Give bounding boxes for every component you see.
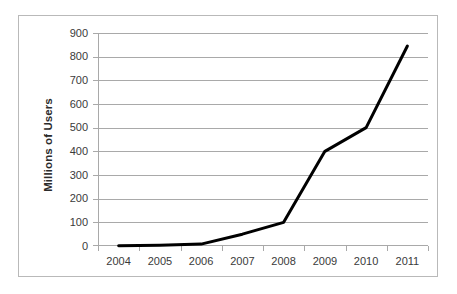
x-tick-mark-2 [181,246,182,251]
x-tick-label-2010: 2010 [345,255,387,267]
x-tick-label-2007: 2007 [221,255,263,267]
data-series-line [98,33,428,246]
y-tick-label-200: 200 [54,193,88,204]
x-tick-label-2004: 2004 [98,255,140,267]
x-tick-label-2008: 2008 [263,255,305,267]
x-tick-mark-5 [304,246,305,251]
x-tick-mark-6 [346,246,347,251]
y-tick-label-600: 600 [54,99,88,110]
chart-figure: Millions of Users 900 800 700 600 500 40… [0,0,457,294]
y-tick-label-100: 100 [54,217,88,228]
y-tick-label-400: 400 [54,146,88,157]
x-tick-mark-7 [387,246,388,251]
x-tick-label-2009: 2009 [304,255,346,267]
y-tick-label-800: 800 [54,51,88,62]
y-tick-label-300: 300 [54,170,88,181]
x-tick-label-2006: 2006 [180,255,222,267]
y-tick-label-500: 500 [54,122,88,133]
x-tick-mark-4 [263,246,264,251]
x-tick-mark-3 [222,246,223,251]
x-tick-mark-8 [428,246,429,251]
y-tick-label-0: 0 [54,241,88,252]
y-tick-label-900: 900 [54,28,88,39]
x-tick-label-2005: 2005 [139,255,181,267]
x-tick-label-2011: 2011 [386,255,428,267]
y-tick-label-700: 700 [54,75,88,86]
x-tick-mark-0 [98,246,99,251]
series-polyline-millions-of-users [119,46,408,246]
